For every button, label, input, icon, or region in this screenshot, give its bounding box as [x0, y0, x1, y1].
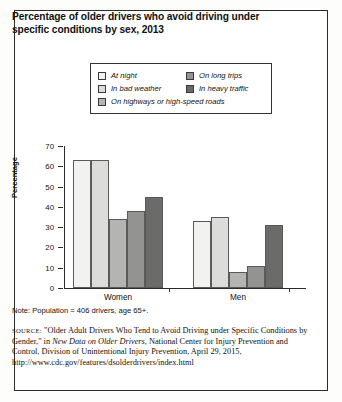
legend-label-on-long-trips: On long trips [199, 71, 242, 80]
legend-item-on-highways: On highways or high-speed roads [98, 97, 225, 106]
y-tick [58, 268, 63, 269]
bar-group [73, 146, 163, 288]
y-tick [58, 227, 63, 228]
y-tick-label: 20 [26, 243, 54, 252]
bar [193, 221, 211, 288]
bar [127, 211, 145, 288]
legend-row: At night On long trips [98, 69, 265, 82]
x-tick [289, 288, 290, 292]
legend-item-in-bad-weather: In bad weather [98, 84, 186, 93]
y-tick-label: 10 [26, 263, 54, 272]
bar [247, 266, 265, 288]
x-axis-label: Men [193, 293, 283, 302]
y-tick-label: 40 [26, 202, 54, 211]
chart-title: Percentage of older drivers who avoid dr… [12, 10, 297, 36]
y-tick [58, 187, 63, 188]
legend-row: On highways or high-speed roads [98, 95, 265, 108]
figure-panel: Percentage of older drivers who avoid dr… [0, 0, 342, 402]
y-tick-label: 70 [26, 142, 54, 151]
x-tick [169, 288, 170, 292]
chart-note: Note: Population = 406 drivers, age 65+. [12, 306, 304, 316]
legend-swatch-at-night [98, 72, 106, 80]
y-tick-label: 0 [26, 284, 54, 293]
legend-swatch-in-heavy-traffic [186, 85, 194, 93]
bar [229, 272, 247, 288]
bar-group [193, 146, 283, 288]
source-label: SOURCE: [12, 327, 42, 334]
legend-item-in-heavy-traffic: In heavy traffic [186, 84, 248, 93]
y-axis-title: Percentage [10, 157, 19, 198]
y-tick [58, 146, 63, 147]
legend-row: In bad weather In heavy traffic [98, 82, 265, 95]
x-axis-label: Women [73, 293, 163, 302]
legend-item-on-long-trips: On long trips [186, 71, 242, 80]
legend-swatch-on-long-trips [186, 72, 194, 80]
y-tick [58, 288, 63, 289]
legend-label-in-heavy-traffic: In heavy traffic [199, 84, 248, 93]
y-tick [58, 207, 63, 208]
chart-source: SOURCE: "Older Adult Drivers Who Tend to… [12, 326, 308, 368]
legend-swatch-on-highways [98, 98, 106, 106]
y-tick-label: 50 [26, 182, 54, 191]
y-tick [58, 166, 63, 167]
x-axis-line [64, 288, 306, 289]
legend-label-on-highways: On highways or high-speed roads [111, 97, 225, 106]
bar [91, 160, 109, 288]
bar [145, 197, 163, 288]
y-tick [58, 247, 63, 248]
plot-area: Percentage 010203040506070 WomenMen [26, 146, 308, 290]
source-italic-1: New Data on Older Drivers, [52, 337, 147, 346]
legend-label-at-night: At night [111, 71, 137, 80]
bar [109, 219, 127, 288]
bar [265, 225, 283, 288]
bar [73, 160, 91, 288]
chart-legend: At night On long trips In bad weather In… [90, 63, 272, 114]
legend-item-at-night: At night [98, 71, 186, 80]
legend-label-in-bad-weather: In bad weather [111, 84, 161, 93]
y-tick-label: 60 [26, 162, 54, 171]
y-tick-label: 30 [26, 223, 54, 232]
legend-swatch-in-bad-weather [98, 85, 106, 93]
bar-series-container [65, 146, 306, 288]
bar [211, 217, 229, 288]
